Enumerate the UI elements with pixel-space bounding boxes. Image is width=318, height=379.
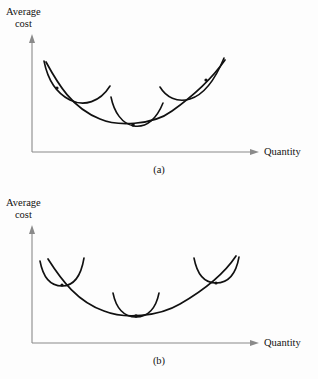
envelope-curve-a [46, 60, 225, 124]
tangency-dot-a-left [55, 86, 58, 89]
y-axis-label-b-line2: cost [6, 209, 41, 221]
srac-curve-a-center [111, 97, 163, 126]
y-axis-label-a-line2: cost [6, 18, 41, 30]
tangency-dot-a-center [131, 123, 135, 127]
panel-a: Average cost Quantity (a) [0, 0, 318, 190]
srac-curve-b-left [40, 258, 84, 286]
x-axis-label-a: Quantity [264, 146, 301, 158]
crossing-dot-b-left [60, 283, 63, 286]
y-axis-arrowhead-b [29, 225, 35, 234]
y-axis-label-b: Average cost [6, 197, 41, 220]
x-axis-arrowhead-a [250, 149, 259, 155]
figure-root: Average cost Quantity (a) [0, 0, 318, 379]
y-axis-label-a-line1: Average [6, 6, 41, 17]
y-axis-label-a: Average cost [6, 6, 41, 29]
y-axis-arrowhead-a [29, 34, 35, 43]
envelope-curve-b [48, 256, 236, 316]
panel-b: Average cost Quantity (b) [0, 189, 318, 379]
panel-caption-a: (a) [0, 164, 318, 175]
y-axis-label-b-line1: Average [6, 197, 41, 208]
crossing-dot-b-right [214, 281, 217, 284]
panel-a-plot [0, 0, 318, 190]
x-axis-arrowhead-b [250, 340, 259, 346]
x-axis-label-b: Quantity [264, 337, 301, 349]
tangency-dot-a-right [204, 78, 207, 81]
crossing-dot-b-center [134, 314, 138, 318]
panel-b-plot [0, 189, 318, 379]
srac-curve-a-right [160, 58, 224, 100]
srac-curve-a-left [44, 61, 110, 103]
panel-caption-b: (b) [0, 355, 318, 366]
